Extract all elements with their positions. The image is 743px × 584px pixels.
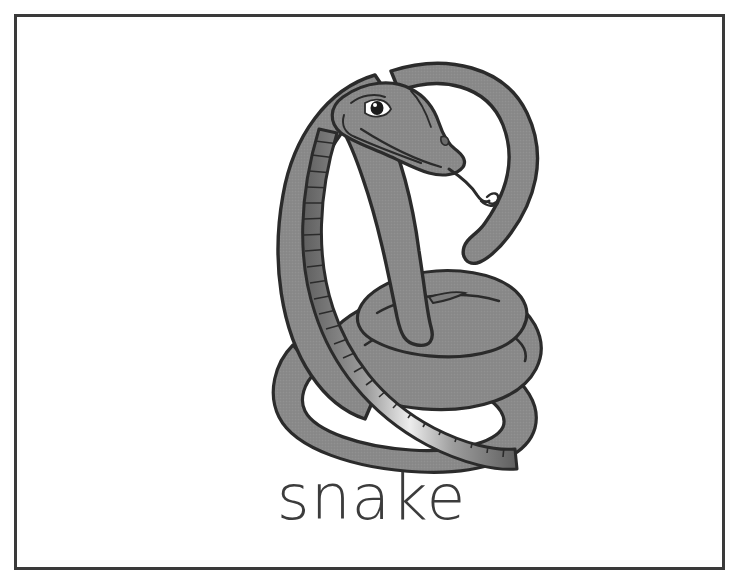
snake-illustration [215,45,545,475]
snake-eye [365,100,391,117]
flashcard: snake [0,0,743,584]
head-shape [332,83,464,175]
nostril [441,136,449,145]
word-caption: snake [0,466,743,529]
forked-tongue [449,169,489,202]
tongue-fork-upper [487,193,498,203]
coil-upper-loop [357,271,526,357]
